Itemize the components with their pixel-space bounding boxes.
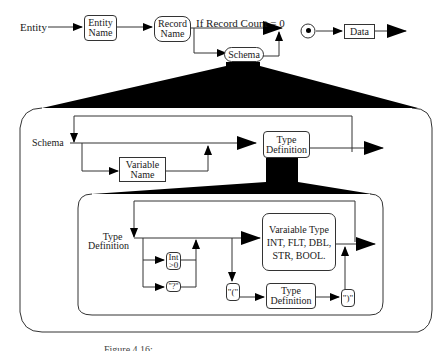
variable-name-box: Variable Name	[119, 157, 166, 182]
open-paren-box: "("	[226, 283, 240, 301]
type-definition-line1: Type	[277, 135, 297, 145]
schema-pill: Schema	[224, 47, 264, 62]
entity-label: Entity	[20, 22, 47, 32]
variable-type-title: Varaiable Type	[269, 223, 329, 236]
variable-type-line2: STR, BOOL.	[272, 249, 325, 262]
question-label: "?"	[168, 282, 178, 292]
entity-name-line2: Name	[89, 28, 113, 38]
int-line2: >0	[169, 261, 179, 269]
close-paren-box: ")"	[341, 289, 355, 307]
nested-type-definition-box: Type Definition	[266, 283, 316, 309]
int-box: Int >0	[166, 252, 181, 270]
variable-name-line1: Variable	[126, 160, 159, 170]
type-definition-label: Type Definition	[88, 232, 129, 250]
type-definition-box: Type Definition	[263, 131, 310, 158]
schema-label: Schema	[32, 138, 64, 148]
record-name-line2: Name	[161, 29, 185, 39]
type-definition-line2: Definition	[266, 145, 307, 155]
condition-label: If Record Count = 0	[196, 18, 285, 28]
type-definition-label-line2: Definition	[88, 241, 129, 250]
data-label: Data	[350, 27, 369, 37]
data-box: Data	[344, 24, 375, 39]
variable-type-box: Varaiable Type INT, FLT, DBL, STR, BOOL.	[262, 213, 336, 271]
close-paren-label: ")"	[343, 293, 353, 303]
nested-type-definition-line2: Definition	[270, 296, 311, 306]
terminal-dot-icon	[306, 28, 311, 33]
schema-pill-label: Schema	[228, 50, 260, 60]
question-box: "?"	[166, 281, 181, 292]
open-paren-label: "("	[228, 287, 238, 297]
figure-caption: Figure 4.16: ...	[104, 344, 163, 351]
variable-name-line2: Name	[131, 170, 155, 180]
record-name-box: Record Name	[154, 16, 191, 42]
diagram-lines	[0, 0, 442, 351]
variable-type-line1: INT, FLT, DBL,	[267, 236, 332, 249]
entity-name-box: Entity Name	[84, 15, 117, 41]
